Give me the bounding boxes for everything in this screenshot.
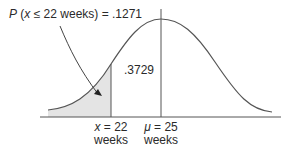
x-value-label: x = 22 weeks [88, 121, 134, 147]
probability-label: P (x ≤ 22 weeks) = .1271 [9, 8, 142, 21]
pointer-arrow-line [60, 26, 98, 94]
area-label: .3729 [124, 64, 154, 77]
mean-label: μ = 25 weeks [138, 121, 184, 147]
bell-curve [48, 19, 272, 112]
